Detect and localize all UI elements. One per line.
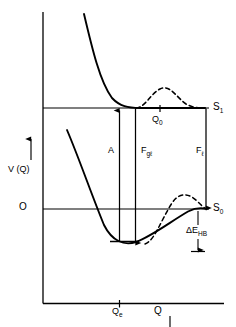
s1-state-label: S1	[213, 102, 223, 115]
origin-label: O	[19, 202, 27, 212]
potential-energy-diagram: S1 S0 Q0 Qe ΔEHB A Fgℓ Fℓ V (Q) O Q	[0, 0, 236, 327]
s1-barrier-dashed	[136, 88, 205, 108]
diagram-canvas	[0, 0, 236, 327]
absorption-label: A	[108, 146, 114, 155]
q-zero-label: Q0	[152, 115, 163, 126]
fluorescence-gl-label: Fgℓ	[141, 146, 152, 157]
axis-lines	[43, 12, 224, 304]
q-equilibrium-label: Qe	[112, 307, 123, 318]
y-axis-label: V (Q)	[8, 164, 30, 174]
s1-potential-curve	[84, 14, 205, 108]
fluorescence-l-label: Fℓ	[196, 146, 204, 157]
x-axis-label: Q	[154, 306, 162, 316]
s0-state-label: S0	[213, 203, 223, 216]
delta-e-hb-label: ΔEHB	[186, 226, 207, 237]
